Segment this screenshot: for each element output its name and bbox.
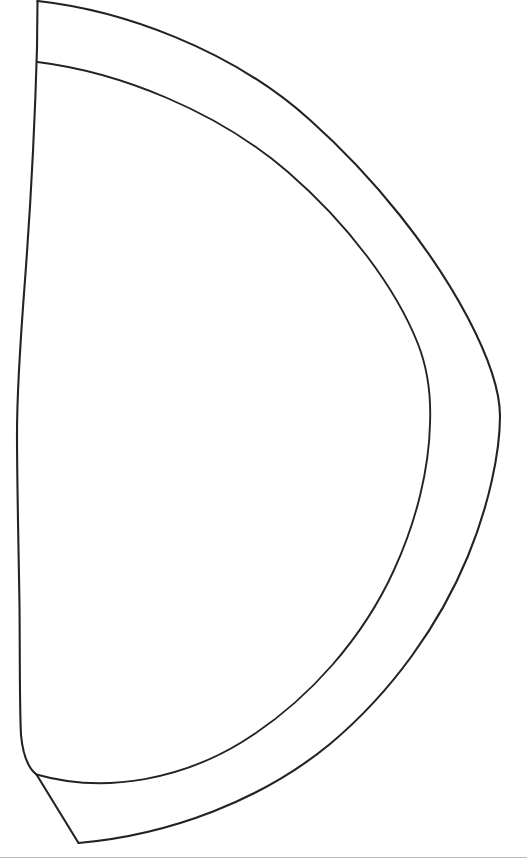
drawing-canvas: [0, 0, 527, 865]
pattern-piece-drawing: [0, 0, 527, 865]
page-background: [0, 0, 527, 865]
